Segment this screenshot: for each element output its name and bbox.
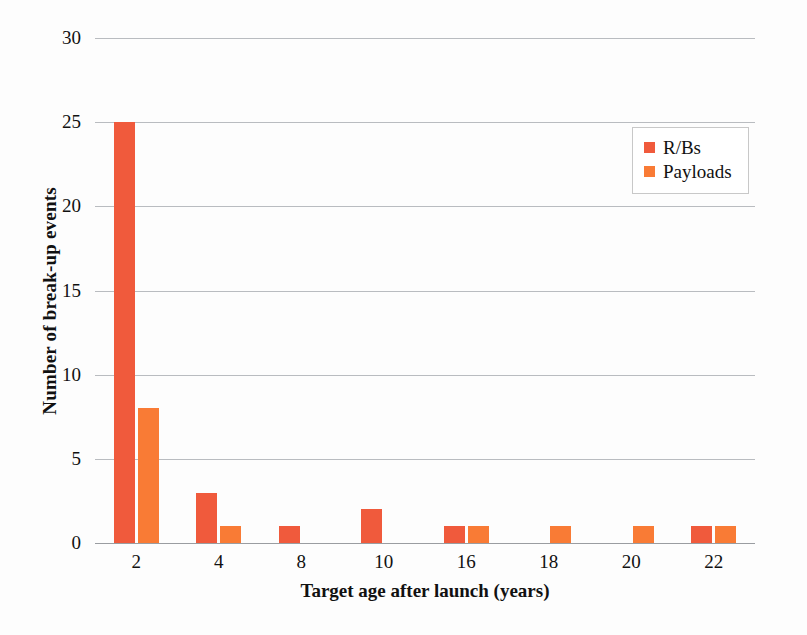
plot-area: 051015202530 2481016182022 [95, 38, 755, 543]
gridline [95, 38, 755, 39]
gridline [95, 122, 755, 123]
gridline [95, 291, 755, 292]
bar [220, 526, 241, 543]
bar [196, 493, 217, 544]
legend-swatch-icon [644, 166, 655, 177]
x-tick-label: 16 [457, 551, 476, 573]
bar [691, 526, 712, 543]
x-tick-label: 20 [622, 551, 641, 573]
x-axis-title: Target age after launch (years) [95, 580, 755, 602]
gridline [95, 543, 755, 544]
legend-item: R/Bs [644, 137, 732, 159]
gridline [95, 375, 755, 376]
bar [114, 122, 135, 543]
bar [138, 408, 159, 543]
x-tick-label: 22 [704, 551, 723, 573]
bar [468, 526, 489, 543]
y-tick-label: 0 [72, 532, 82, 554]
bar [715, 526, 736, 543]
bar [633, 526, 654, 543]
bar [279, 526, 300, 543]
gridline [95, 206, 755, 207]
y-tick-label: 25 [62, 111, 81, 133]
legend-label: R/Bs [663, 137, 701, 159]
x-tick-label: 2 [132, 551, 142, 573]
x-tick-label: 8 [297, 551, 307, 573]
bar-chart: Number of break-up events 051015202530 2… [0, 0, 807, 635]
x-tick-label: 4 [214, 551, 224, 573]
legend-item: Payloads [644, 161, 732, 183]
y-tick-label: 20 [62, 195, 81, 217]
legend-items: R/BsPayloads [644, 137, 732, 183]
gridline [95, 459, 755, 460]
y-tick-label: 5 [72, 448, 82, 470]
legend-label: Payloads [663, 161, 732, 183]
legend-swatch-icon [644, 142, 655, 153]
y-tick-label: 30 [62, 27, 81, 49]
y-axis-title: Number of break-up events [39, 141, 61, 461]
x-tick-label: 10 [374, 551, 393, 573]
chart-legend: R/BsPayloads [632, 127, 749, 194]
bar [361, 509, 382, 543]
x-tick-label: 18 [539, 551, 558, 573]
bar [444, 526, 465, 543]
bar [550, 526, 571, 543]
y-tick-label: 15 [62, 280, 81, 302]
y-tick-label: 10 [62, 364, 81, 386]
